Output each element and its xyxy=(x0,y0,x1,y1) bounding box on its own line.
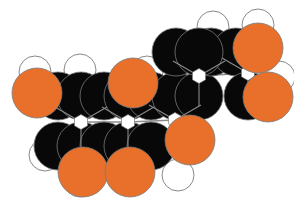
ring-junction xyxy=(75,115,88,130)
oxygen-atom xyxy=(243,72,293,122)
oxygen-atom xyxy=(105,147,155,197)
oxygen-atom xyxy=(108,58,158,108)
oxygen-atom xyxy=(58,147,108,197)
ring-junction xyxy=(122,115,135,130)
oxygen-atom xyxy=(165,115,215,165)
oxygen-atom xyxy=(233,23,283,73)
ring-junction xyxy=(193,69,206,84)
oxygen-atom xyxy=(12,68,62,118)
molecule-figure xyxy=(0,0,294,213)
molecule-canvas xyxy=(0,0,294,213)
